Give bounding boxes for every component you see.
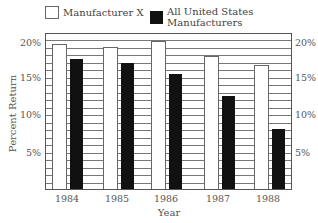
legend-item-all-us: All United States Manufacturers	[150, 6, 318, 28]
bar-all-us-1988	[272, 129, 285, 189]
legend-item-manufacturer-x: Manufacturer X	[45, 6, 144, 19]
bar-all-us-1985	[121, 63, 134, 189]
ytick-20-left: 20%	[20, 37, 41, 48]
y-axis-label: Percent Return	[7, 74, 18, 154]
grid-line	[46, 55, 291, 56]
plot-area	[45, 33, 292, 190]
xtick-1984: 1984	[47, 193, 87, 204]
bar-manufacturer-x-1988	[254, 65, 269, 189]
grid-line	[46, 40, 291, 41]
legend: Manufacturer X All United States Manufac…	[0, 6, 318, 22]
xtick-1987: 1987	[198, 193, 238, 204]
legend-label: Manufacturer X	[63, 7, 144, 18]
ytick-15-left: 15%	[20, 72, 41, 83]
bar-manufacturer-x-1984	[52, 44, 67, 189]
bar-all-us-1986	[169, 74, 182, 189]
ytick-10-right: 10%	[295, 109, 316, 120]
grid-line	[46, 48, 291, 49]
bar-all-us-1984	[70, 59, 83, 189]
legend-label: All United States Manufacturers	[167, 6, 318, 28]
bar-manufacturer-x-1985	[103, 47, 118, 189]
ytick-20-right: 20%	[295, 37, 316, 48]
xtick-1988: 1988	[248, 193, 288, 204]
grid-line	[46, 33, 291, 34]
bar-all-us-1987	[222, 96, 235, 189]
bar-manufacturer-x-1987	[204, 56, 219, 189]
legend-swatch-white	[45, 6, 59, 19]
xtick-1986: 1986	[146, 193, 186, 204]
legend-swatch-black	[150, 11, 163, 24]
x-axis-label: Year	[0, 207, 318, 218]
bar-manufacturer-x-1986	[151, 41, 166, 189]
ytick-10-left: 10%	[20, 109, 41, 120]
ytick-15-right: 15%	[295, 72, 316, 83]
xtick-1985: 1985	[97, 193, 137, 204]
ytick-5-left: 5%	[26, 147, 41, 158]
ytick-5-right: 5%	[295, 147, 310, 158]
